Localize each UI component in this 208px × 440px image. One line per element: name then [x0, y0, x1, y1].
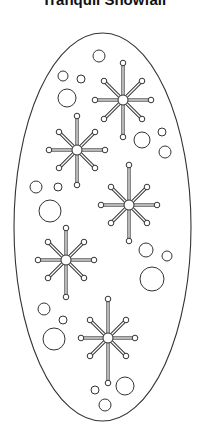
- bubble-circle: [116, 377, 134, 395]
- bubble-circle: [91, 386, 99, 394]
- bubble-circle: [38, 303, 50, 315]
- bubble-circle: [159, 146, 171, 158]
- bubble-circle: [158, 128, 166, 136]
- snowflake: [78, 296, 138, 386]
- bubble-circle: [139, 243, 153, 257]
- bubble-circle: [59, 316, 67, 324]
- snowflake: [92, 60, 154, 140]
- snowflake: [35, 225, 97, 300]
- coloring-page: Tranquil Snowfall: [0, 0, 208, 440]
- bubble-circle: [30, 181, 42, 193]
- oval-frame: [14, 33, 191, 421]
- bubble-circle: [39, 200, 61, 222]
- bubble-circle: [99, 399, 111, 411]
- snowfall-illustration: [0, 0, 208, 440]
- snowflakes-group: [35, 60, 160, 386]
- bubbles-group: [30, 50, 172, 411]
- bubble-circle: [58, 71, 68, 81]
- bubble-circle: [77, 75, 85, 83]
- bubble-circle: [43, 328, 65, 350]
- snowflake: [46, 113, 108, 188]
- bubble-circle: [58, 89, 76, 107]
- bubble-circle: [140, 267, 164, 291]
- bubble-circle: [54, 183, 62, 191]
- bubble-circle: [93, 50, 105, 62]
- bubble-circle: [134, 132, 150, 148]
- bubble-circle: [162, 251, 172, 261]
- snowflake: [98, 162, 160, 244]
